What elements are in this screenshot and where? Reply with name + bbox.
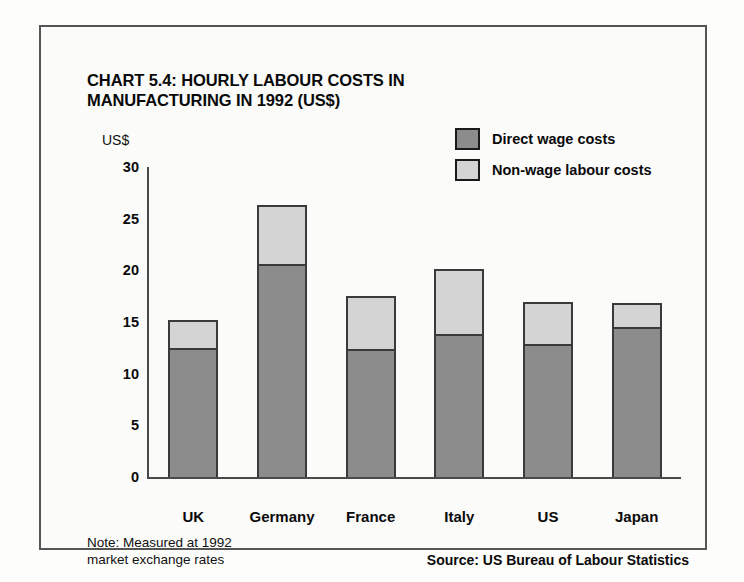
bar-slot-france xyxy=(326,167,415,477)
chart-note: Note: Measured at 1992 market exchange r… xyxy=(87,535,327,569)
page-background: CHART 5.4: HOURLY LABOUR COSTS IN MANUFA… xyxy=(0,0,744,582)
chart-note-line-2: market exchange rates xyxy=(87,552,327,569)
bar-slot-uk xyxy=(149,167,238,477)
chart-title: CHART 5.4: HOURLY LABOUR COSTS IN MANUFA… xyxy=(87,70,517,110)
bar-segment-non-wage-france xyxy=(348,298,394,351)
legend-item-direct-wage-costs: Direct wage costs xyxy=(455,128,652,150)
x-axis-label-italy: Italy xyxy=(415,508,504,525)
x-axis-label-japan: Japan xyxy=(592,508,681,525)
bar-us[interactable] xyxy=(523,302,573,477)
bar-group xyxy=(149,167,681,477)
x-axis-label-germany: Germany xyxy=(238,508,327,525)
x-axis-line xyxy=(147,477,681,479)
y-axis-tick-0: 0 xyxy=(97,469,139,485)
legend-swatch-direct-wage-costs xyxy=(455,128,480,150)
bar-slot-japan xyxy=(592,167,681,477)
chart-title-line-2: MANUFACTURING IN 1992 (US$) xyxy=(87,90,517,110)
bar-segment-non-wage-japan xyxy=(614,305,660,329)
bar-segment-direct-wage-japan xyxy=(614,329,660,477)
bar-slot-us xyxy=(504,167,593,477)
bar-japan[interactable] xyxy=(612,303,662,477)
chart-panel: CHART 5.4: HOURLY LABOUR COSTS IN MANUFA… xyxy=(39,25,707,550)
bar-segment-non-wage-germany xyxy=(259,207,305,266)
bar-germany[interactable] xyxy=(257,205,307,477)
y-axis-tick-30: 30 xyxy=(97,159,139,175)
y-axis-unit-label: US$ xyxy=(102,132,129,148)
bar-segment-non-wage-us xyxy=(525,304,571,345)
chart-title-line-1: CHART 5.4: HOURLY LABOUR COSTS IN xyxy=(87,70,517,90)
bar-segment-non-wage-uk xyxy=(170,322,216,350)
bar-france[interactable] xyxy=(346,296,396,477)
bar-slot-italy xyxy=(415,167,504,477)
y-axis-tick-5: 5 xyxy=(97,417,139,433)
legend-label-direct-wage-costs: Direct wage costs xyxy=(492,131,615,147)
y-axis-tick-25: 25 xyxy=(97,211,139,227)
plot-area: 302520151050 xyxy=(97,167,681,479)
bar-slot-germany xyxy=(238,167,327,477)
bar-segment-non-wage-italy xyxy=(436,271,482,336)
bar-uk[interactable] xyxy=(168,320,218,477)
y-axis-tick-20: 20 xyxy=(97,262,139,278)
x-axis-category-labels: UKGermanyFranceItalyUSJapan xyxy=(149,508,681,525)
bar-segment-direct-wage-france xyxy=(348,351,394,477)
x-axis-label-us: US xyxy=(504,508,593,525)
y-axis-tick-labels: 302520151050 xyxy=(97,167,139,479)
bar-segment-direct-wage-germany xyxy=(259,266,305,477)
bar-segment-direct-wage-uk xyxy=(170,350,216,477)
y-axis-tick-10: 10 xyxy=(97,366,139,382)
x-axis-label-uk: UK xyxy=(149,508,238,525)
chart-source: Source: US Bureau of Labour Statistics xyxy=(427,552,689,568)
bar-italy[interactable] xyxy=(434,269,484,477)
x-axis-label-france: France xyxy=(326,508,415,525)
chart-note-line-1: Note: Measured at 1992 xyxy=(87,535,327,552)
y-axis-tick-15: 15 xyxy=(97,314,139,330)
bar-segment-direct-wage-us xyxy=(525,346,571,477)
bar-segment-direct-wage-italy xyxy=(436,336,482,477)
